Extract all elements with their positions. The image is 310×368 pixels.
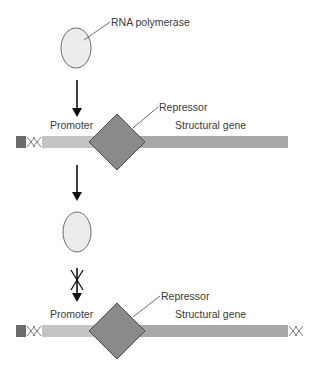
rna-polymerase-label: RNA polymerase xyxy=(111,16,190,28)
down-arrow-top xyxy=(72,80,82,117)
repressor-diagram: RNA polymerase Promoter Structural gene … xyxy=(0,0,310,368)
rna-polymerase-bottom xyxy=(63,212,91,252)
promoter-label-bottom: Promoter xyxy=(50,308,94,320)
structural-gene-label-top: Structural gene xyxy=(175,119,246,131)
structural-gene-label-bottom: Structural gene xyxy=(175,308,246,320)
blocked-arrow-icon xyxy=(71,268,83,302)
dna-strand-bottom xyxy=(16,325,303,337)
dna-strand-top xyxy=(16,136,288,148)
rna-polymerase-top xyxy=(61,22,110,68)
down-arrow-middle xyxy=(72,165,82,201)
repressor-label-top: Repressor xyxy=(159,101,208,113)
repressor-label-bottom: Repressor xyxy=(161,290,210,302)
promoter-label-top: Promoter xyxy=(50,119,94,131)
